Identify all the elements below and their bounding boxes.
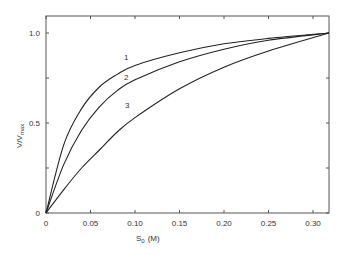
curve-label-1: 1 [124, 53, 129, 62]
curve-1 [46, 33, 329, 213]
curve-label-2: 2 [124, 73, 129, 82]
curve-label-3: 3 [125, 101, 130, 110]
svg-text:0.15: 0.15 [172, 219, 188, 228]
svg-text:0.20: 0.20 [216, 219, 232, 228]
svg-text:0.30: 0.30 [305, 219, 321, 228]
x-axis-label: S0(M) [136, 234, 160, 244]
svg-text:0.05: 0.05 [83, 219, 99, 228]
y-tick-0: 0 [36, 209, 41, 218]
svg-text:0.10: 0.10 [127, 219, 143, 228]
svg-text:0: 0 [44, 219, 49, 228]
y-tick-1.0: 1.0 [29, 29, 41, 38]
y-axis-ticks [46, 33, 329, 213]
y-tick-0.5: 0.5 [29, 119, 41, 128]
curves [46, 33, 329, 213]
svg-text:0.25: 0.25 [261, 219, 277, 228]
chart: 00.050.100.150.200.250.30 1 2 3 1.0 0.5 … [0, 0, 344, 255]
curve-3 [46, 33, 329, 213]
curve-2 [46, 33, 329, 213]
y-axis-label: V/Vmax [15, 124, 25, 148]
